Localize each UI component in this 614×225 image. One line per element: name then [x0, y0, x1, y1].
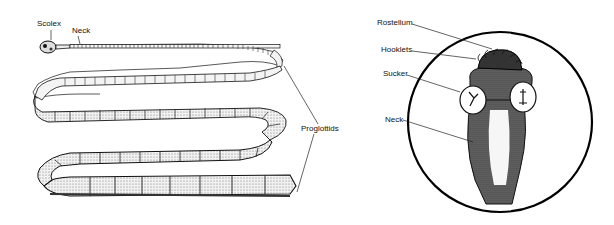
tapeworm-body	[33, 41, 296, 196]
label-rostellum: Rostellum	[377, 19, 413, 27]
label-neck-right: Neck	[385, 116, 403, 124]
sucker-right	[510, 82, 536, 112]
scolex-icon	[40, 41, 70, 53]
diagram-canvas	[0, 0, 614, 225]
segments-row-5	[44, 175, 296, 196]
segments-row-3	[34, 96, 287, 140]
label-scolex: Scolex	[37, 20, 61, 28]
scolex-detail	[408, 32, 592, 212]
label-proglottids: Proglottids	[301, 125, 339, 133]
sucker-left	[460, 86, 486, 114]
label-hooklets: Hooklets	[381, 46, 412, 54]
thin-segments	[33, 44, 283, 98]
label-neck-left: Neck	[72, 27, 90, 35]
label-sucker: Sucker	[383, 70, 408, 78]
segments-row-2	[35, 66, 282, 100]
